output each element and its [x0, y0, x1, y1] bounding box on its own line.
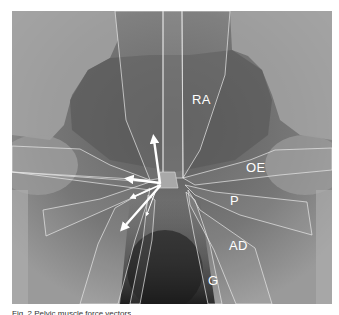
region-ra-center [163, 11, 183, 178]
label-ra: RA [192, 92, 211, 107]
label-g: G [208, 273, 218, 288]
label-p: P [230, 193, 239, 208]
left-femur [12, 190, 28, 304]
figure-caption: Fig. 2 Pelvic muscle force vectors [12, 308, 131, 315]
label-ad: AD [229, 238, 248, 253]
label-oe: OE [246, 160, 265, 175]
xray-image [12, 11, 332, 304]
right-femur [316, 190, 332, 304]
xray-figure: RA OE P AD G [12, 11, 332, 304]
